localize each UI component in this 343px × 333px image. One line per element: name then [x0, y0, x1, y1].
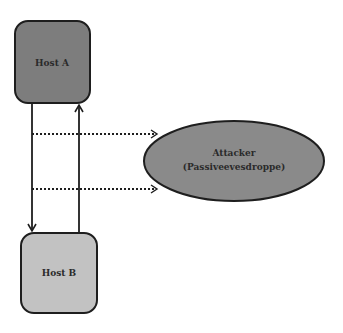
host-b-label: Host B [42, 268, 77, 278]
attacker-sublabel: (Passiveevesdroppe) [183, 162, 285, 172]
network-diagram: Host A Host B Attacker (Passiveevesdropp… [0, 0, 343, 333]
attacker-label: Attacker [211, 148, 255, 158]
attacker-node: Attacker (Passiveevesdroppe) [144, 121, 324, 201]
host-b-node: Host B [21, 233, 97, 313]
host-a-node: Host A [15, 21, 90, 103]
host-a-label: Host A [35, 58, 70, 68]
